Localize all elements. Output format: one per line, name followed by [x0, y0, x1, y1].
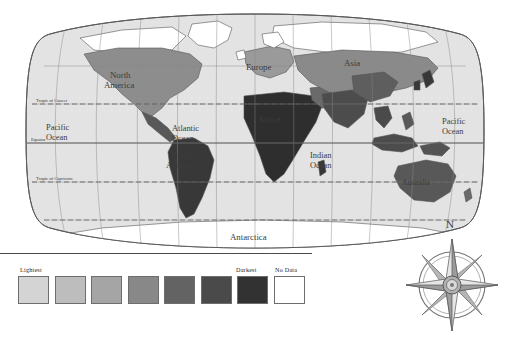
map-svg: Tropic of Cancer Equator Tropic of Capri… [22, 12, 488, 250]
ocean-label-pacific-east: Pacific [442, 117, 466, 126]
compass-rose-icon [404, 234, 500, 336]
legend-swatch-row [18, 276, 305, 304]
legend-darkest-label: Darkest [236, 266, 257, 273]
tropic-of-capricorn-label: Tropic of Capricorn [36, 176, 73, 181]
ocean-label-atlantic-2: Ocean [172, 134, 194, 143]
ocean-label-pacific-west-2: Ocean [46, 133, 68, 142]
legend-swatch-7 [237, 276, 268, 304]
ocean-label-pacific-east-2: Ocean [442, 127, 464, 136]
legend-swatch-3 [91, 276, 122, 304]
legend: Lightest Darkest No Data [18, 266, 308, 318]
equator-label: Equator [31, 137, 46, 142]
ocean-label-atlantic: Atlantic [172, 124, 199, 133]
legend-swatch-5 [164, 276, 195, 304]
continent-label-australia: Australia [402, 178, 430, 187]
continent-label-south-america-2: America [166, 160, 196, 170]
world-map-figure: Tropic of Cancer Equator Tropic of Capri… [0, 0, 510, 347]
legend-swatch-2 [55, 276, 86, 304]
compass-rose: N [398, 218, 502, 342]
ocean-label-pacific-west: Pacific [46, 123, 70, 132]
continent-label-north-america: North [110, 70, 131, 80]
continent-label-north-america-2: America [104, 80, 134, 90]
legend-nodata-label: No Data [275, 266, 297, 273]
map-area: Tropic of Cancer Equator Tropic of Capri… [22, 12, 488, 250]
land-korea [414, 80, 420, 90]
ocean-label-indian-2: Ocean [310, 161, 332, 170]
section-divider [0, 253, 312, 254]
continent-label-europe: Europe [246, 62, 271, 72]
legend-swatch-6 [201, 276, 232, 304]
land-british-isles [236, 50, 246, 60]
legend-swatch-1 [18, 276, 49, 304]
continent-label-asia: Asia [344, 58, 360, 68]
continent-label-south-america: South [172, 150, 193, 160]
compass-hub [443, 276, 461, 294]
continent-label-africa: Africa [258, 114, 281, 124]
ocean-label-indian: Indian [310, 151, 332, 160]
legend-swatch-nodata [274, 276, 305, 304]
legend-swatch-4 [128, 276, 159, 304]
compass-north-label: N [446, 218, 454, 230]
tropic-of-cancer-label: Tropic of Cancer [36, 98, 68, 103]
continent-label-antarctica: Antarctica [230, 232, 267, 242]
legend-lightest-label: Lightest [20, 266, 42, 273]
